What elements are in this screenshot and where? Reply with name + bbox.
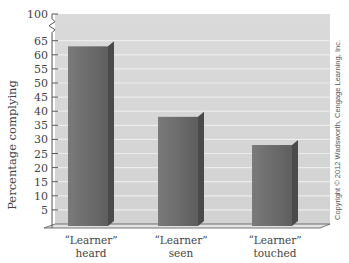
- y-tick-label: 20: [34, 162, 48, 175]
- copyright-notice: Copyright © 2012 Wadsworth, Cengage Lear…: [333, 40, 342, 220]
- y-tick-label: 60: [34, 49, 48, 62]
- y-axis-label: Percentage complying: [5, 80, 19, 210]
- y-tick-label: 45: [34, 91, 48, 104]
- y-tick-label: 10: [34, 190, 48, 203]
- y-tick-label: 30: [34, 133, 48, 146]
- x-category-label: “Learner”: [154, 234, 207, 246]
- y-tick-label: 40: [34, 105, 48, 118]
- x-category-label: heard: [76, 247, 107, 259]
- y-tick-label: 5: [41, 204, 48, 217]
- bar: [158, 112, 204, 226]
- y-axis: 5101520253035404550556065100: [27, 8, 58, 228]
- y-tick-label: 25: [34, 148, 48, 161]
- bar: [252, 140, 298, 226]
- y-tick-label: 35: [34, 119, 48, 132]
- x-category-label: “Learner”: [64, 234, 117, 246]
- y-tick-label: 100: [27, 8, 48, 21]
- y-tick-label: 15: [34, 176, 48, 189]
- x-axis-labels: “Learner”heard“Learner”seen“Learner”touc…: [64, 234, 301, 259]
- x-category-label: “Learner”: [248, 234, 301, 246]
- bar-chart: 5101520253035404550556065100 “Learner”he…: [0, 0, 349, 263]
- x-category-label: touched: [254, 247, 297, 259]
- y-tick-label: 50: [34, 77, 48, 90]
- x-category-label: seen: [169, 247, 194, 259]
- bar: [68, 41, 114, 226]
- y-tick-label: 55: [34, 63, 48, 76]
- y-tick-label: 65: [34, 35, 48, 48]
